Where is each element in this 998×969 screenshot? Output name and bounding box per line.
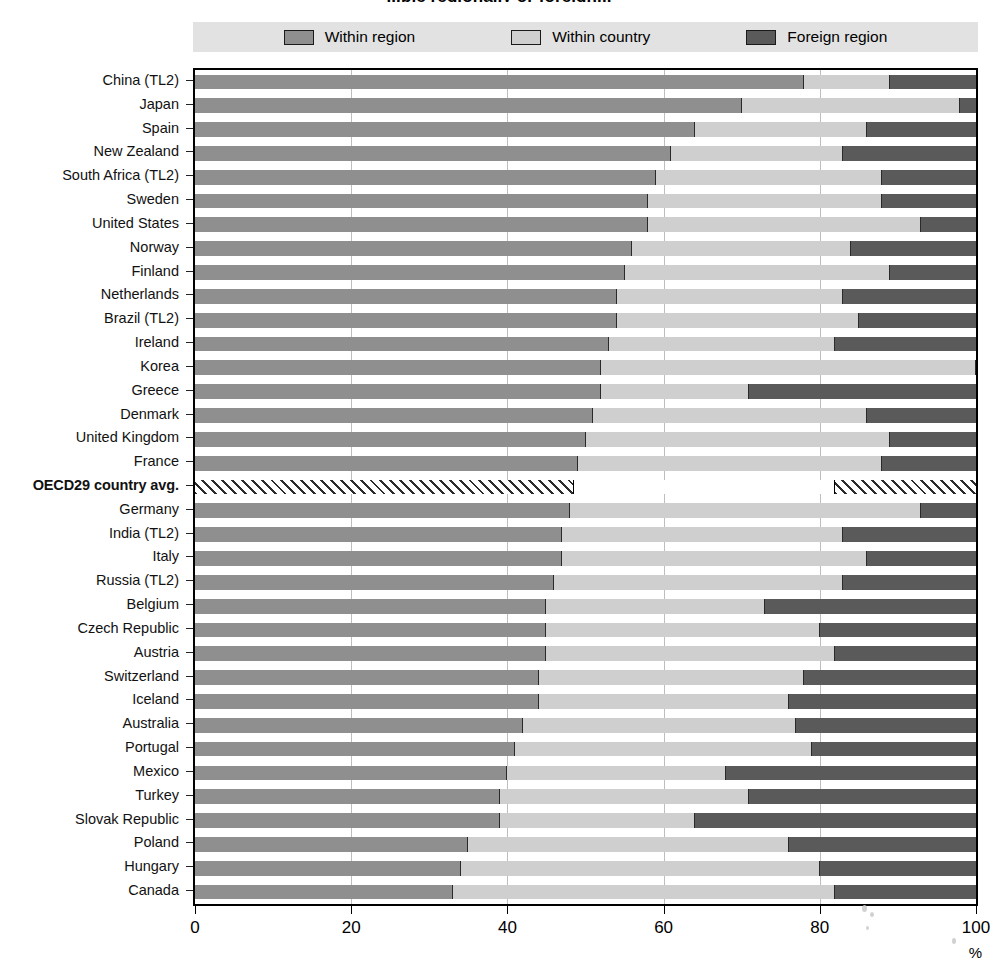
y-axis-label: Norway [0, 240, 186, 255]
bar-segment-within-region [195, 599, 546, 614]
bar-segment-within-country [601, 384, 749, 399]
y-axis-label: Japan [0, 97, 186, 112]
bar-row [195, 718, 976, 733]
bar-segment-within-country [625, 265, 891, 280]
y-axis-tick [186, 819, 193, 820]
bar-segment-foreign-region [843, 575, 976, 590]
y-axis-label: OECD29 country avg. [0, 478, 186, 493]
y-axis-label: Poland [0, 835, 186, 850]
bar-segment-within-country [468, 837, 788, 852]
bar-segment-within-region [195, 265, 625, 280]
y-axis-label: Slovak Republic [0, 812, 186, 827]
bar-row [195, 408, 976, 423]
y-axis-label: Brazil (TL2) [0, 311, 186, 326]
y-axis-label: Czech Republic [0, 621, 186, 636]
bar-segment-foreign-region [835, 646, 976, 661]
y-axis-tick [186, 556, 193, 557]
foreign-region-swatch [746, 30, 776, 45]
bar-row [195, 98, 976, 113]
bar-segment-foreign-region [726, 766, 976, 781]
y-axis-label: Finland [0, 264, 186, 279]
bar-segment-foreign-region [843, 146, 976, 161]
bar-segment-within-region [195, 623, 546, 638]
bar-segment-within-region [195, 337, 609, 352]
bar-segment-foreign-region [882, 194, 976, 209]
bar-row [195, 313, 976, 328]
bar-row [195, 670, 976, 685]
bar-segment-within-region [195, 170, 656, 185]
bar-segment-within-country [648, 217, 921, 232]
bar-segment-within-country [578, 456, 883, 471]
y-axis-tick [186, 247, 193, 248]
x-axis-tick-label: 60 [654, 918, 673, 938]
bar-segment-within-country [500, 789, 750, 804]
bar-segment-foreign-region [820, 861, 976, 876]
bar-segment-foreign-region [890, 265, 976, 280]
y-axis-tick [186, 461, 193, 462]
bar-segment-within-region [195, 360, 601, 375]
bar-segment-within-region [195, 75, 804, 90]
y-axis-labels: China (TL2)JapanSpainNew ZealandSouth Af… [0, 68, 186, 906]
bar-segment-within-region [195, 384, 601, 399]
bar-row [195, 575, 976, 590]
x-axis-unit-label: % [969, 944, 982, 961]
bar-segment-within-region [195, 551, 562, 566]
bar-row [195, 432, 976, 447]
bar-segment-foreign-region [765, 599, 976, 614]
bar-row [195, 503, 976, 518]
bar-row [195, 75, 976, 90]
y-axis-label: Switzerland [0, 669, 186, 684]
y-axis-tick [186, 366, 193, 367]
y-axis-label: Germany [0, 502, 186, 517]
y-axis-label: Hungary [0, 859, 186, 874]
bar-segment-within-country [648, 194, 882, 209]
bar-segment-within-country [515, 742, 812, 757]
y-axis-label: Sweden [0, 192, 186, 207]
bar-segment-within-region [195, 789, 500, 804]
y-axis-label: Russia (TL2) [0, 573, 186, 588]
bar-segment-foreign-region [960, 98, 976, 113]
y-axis-label: Mexico [0, 764, 186, 779]
bar-segment-within-country [601, 360, 976, 375]
bar-segment-foreign-region [921, 217, 976, 232]
y-axis-tick [186, 580, 193, 581]
x-axis-tick [820, 906, 821, 914]
y-axis-label: Australia [0, 716, 186, 731]
y-axis-tick [186, 223, 193, 224]
y-axis-label: Greece [0, 383, 186, 398]
bar-segment-within-region [195, 480, 574, 495]
y-axis-tick [186, 795, 193, 796]
bar-segment-within-region [195, 456, 578, 471]
bar-segment-within-region [195, 885, 453, 900]
bar-segment-foreign-region [820, 623, 976, 638]
x-axis-tick-label: 0 [190, 918, 199, 938]
bar-segment-foreign-region [890, 75, 976, 90]
legend-item-within-country: Within country [511, 28, 650, 46]
x-axis: % 020406080100 [193, 906, 978, 964]
y-axis-tick [186, 390, 193, 391]
bar-segment-foreign-region [804, 670, 976, 685]
bar-segment-foreign-region [796, 718, 976, 733]
bar-segment-within-country [507, 766, 726, 781]
y-axis-label: Iceland [0, 692, 186, 707]
y-axis-tick [186, 533, 193, 534]
bar-segment-foreign-region [812, 742, 976, 757]
bar-segment-within-country [656, 170, 882, 185]
bar-segment-foreign-region [921, 503, 976, 518]
bar-row [195, 480, 976, 495]
bar-segment-foreign-region [789, 694, 976, 709]
bar-segment-within-region [195, 575, 554, 590]
x-axis-tick [351, 906, 352, 914]
bar-row [195, 646, 976, 661]
bar-row [195, 551, 976, 566]
y-axis-tick [186, 485, 193, 486]
y-axis-label: New Zealand [0, 144, 186, 159]
bar-row [195, 527, 976, 542]
bar-segment-within-region [195, 146, 671, 161]
bar-segment-within-region [195, 670, 539, 685]
bar-segment-foreign-region [835, 337, 976, 352]
y-axis-label: Denmark [0, 407, 186, 422]
bar-row [195, 885, 976, 900]
y-axis-tick [186, 104, 193, 105]
y-axis-label: United Kingdom [0, 430, 186, 445]
